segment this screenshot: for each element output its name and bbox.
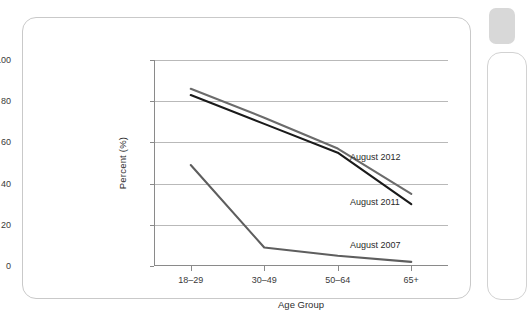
y-axis-label: Percent (%) (117, 137, 128, 189)
x-tick-label-30-49: 30–49 (252, 275, 277, 285)
x-tick-mark-50-64 (338, 266, 339, 271)
x-tick-mark-65-plus (411, 266, 412, 271)
y-tick-label-0: 0 (0, 261, 11, 271)
figure-card: Percent (%) 100 80 60 40 20 0 (22, 17, 471, 299)
y-tick-label-100: 100 (0, 55, 11, 65)
y-tick-label-60: 60 (0, 137, 11, 147)
series-annotation-august-2012: August 2012 (350, 152, 401, 162)
x-axis-label: Age Group (278, 299, 324, 310)
x-tick-label-65-plus: 65+ (404, 275, 419, 285)
line-series-august-2011 (191, 95, 412, 204)
x-tick-mark-18-29 (191, 266, 192, 271)
y-tick-label-80: 80 (0, 96, 11, 106)
x-tick-label-18-29: 18–29 (178, 275, 203, 285)
series-annotation-august-2011: August 2011 (350, 197, 400, 207)
chart-series-layer (154, 60, 448, 266)
y-tick-mark-0 (150, 266, 154, 267)
x-tick-label-50-64: 50–64 (325, 275, 350, 285)
x-tick-mark-30-49 (264, 266, 265, 271)
side-card-tab (489, 8, 515, 44)
adjacent-card-edge (487, 52, 527, 300)
chart-plot-area: Percent (%) 100 80 60 40 20 0 (154, 60, 448, 266)
line-series-august-2012 (191, 89, 412, 194)
series-annotation-august-2007: August 2007 (350, 240, 401, 250)
y-tick-label-40: 40 (0, 179, 11, 189)
y-tick-label-20: 20 (0, 220, 11, 230)
